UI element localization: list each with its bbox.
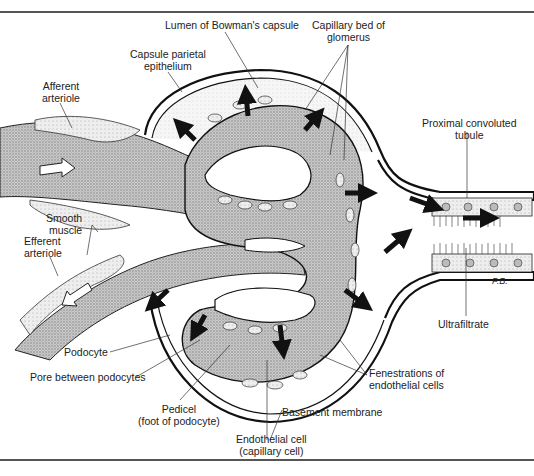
label-proximal-tubule: Proximal convoluted tubule — [422, 117, 517, 141]
label-capillary-bed: Capillary bed of glomerus — [312, 19, 385, 43]
label-proximal-line1: Proximal convoluted — [422, 117, 517, 129]
label-capillary-bed-line2: glomerus — [327, 31, 370, 43]
label-smooth-line1: Smooth — [46, 212, 82, 224]
label-ultrafiltrate: Ultrafiltrate — [438, 318, 489, 330]
label-proximal-line2: tubule — [455, 129, 484, 141]
label-endothelial-line1: Endothelial cell — [236, 433, 307, 445]
label-endothelial-line2: (capillary cell) — [239, 445, 303, 457]
label-afferent-arteriole: Afferent arteriole — [42, 80, 80, 104]
label-efferent-line1: Efferent — [24, 235, 61, 247]
label-capsule-parietal-line2: epithelium — [144, 60, 192, 72]
capillary-loops — [182, 96, 363, 389]
proximal-tubule — [432, 198, 532, 272]
label-afferent-line1: Afferent — [43, 80, 80, 92]
label-pedicel-line2: (foot of podocyte) — [138, 415, 220, 427]
label-endothelial-cell: Endothelial cell (capillary cell) — [236, 433, 307, 457]
label-smooth-muscle: Smooth muscle — [46, 212, 82, 236]
label-podocyte: Podocyte — [64, 346, 108, 358]
label-fenestrations-line2: endothelial cells — [369, 379, 444, 391]
glomerulus-illustration — [0, 0, 534, 476]
label-efferent-line2: arteriole — [24, 247, 62, 259]
label-fenestrations-line1: Fenestrations of — [369, 367, 444, 379]
label-pore-between-podocytes: Pore between podocytes — [30, 371, 146, 383]
label-basement-membrane: Basement membrane — [282, 406, 382, 418]
label-fenestrations: Fenestrations of endothelial cells — [369, 367, 444, 391]
label-pedicel: Pedicel (foot of podocyte) — [138, 403, 220, 427]
artist-signature: P.B. — [492, 276, 508, 286]
label-lumen-bowmans: Lumen of Bowman's capsule — [165, 19, 299, 31]
label-pedicel-line1: Pedicel — [162, 403, 196, 415]
label-capsule-parietal: Capsule parietal epithelium — [130, 48, 206, 72]
label-afferent-line2: arteriole — [42, 92, 80, 104]
label-efferent-arteriole: Efferent arteriole — [24, 235, 62, 259]
label-capillary-bed-line1: Capillary bed of — [312, 19, 385, 31]
label-capsule-parietal-line1: Capsule parietal — [130, 48, 206, 60]
